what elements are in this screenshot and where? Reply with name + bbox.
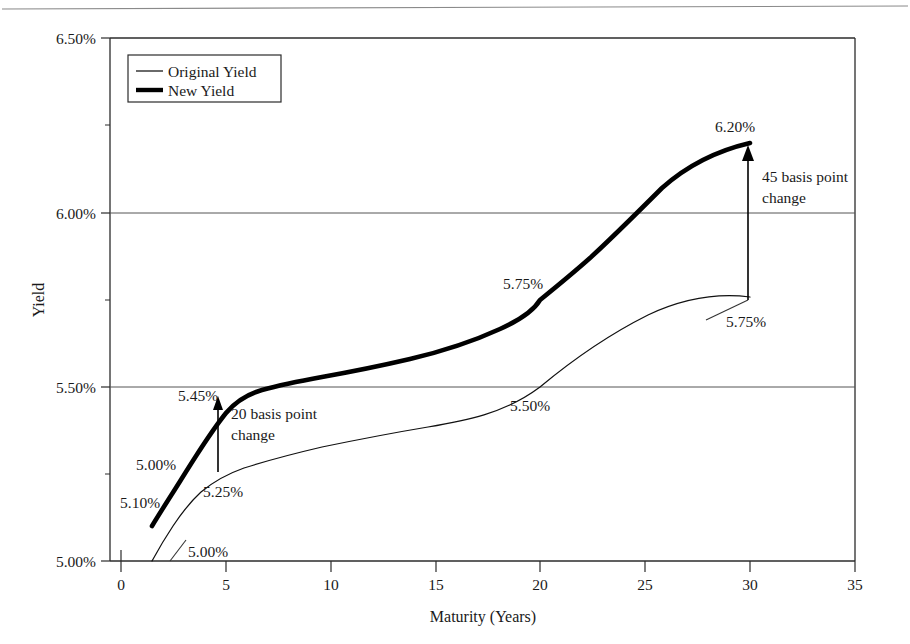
y-tick-label-6-50: 6.50% (56, 30, 96, 47)
x-tick-label-0: 0 (117, 576, 125, 593)
x-tick-label-10: 10 (323, 576, 339, 593)
legend-label-new-yield: New Yield (168, 82, 234, 99)
x-tick-label-35: 35 (847, 576, 863, 593)
x-tick-label-20: 20 (532, 576, 548, 593)
point-label-original-5-25: 5.25% (203, 483, 243, 500)
point-label-new-5-75: 5.75% (503, 275, 543, 292)
y-tick-label-5-50: 5.50% (56, 379, 96, 396)
point-label-original-5-00: 5.00% (188, 543, 228, 560)
point-label-new-6-20: 6.20% (715, 118, 755, 135)
yield-curve-figure: 6.50% 6.00% 5.50% 5.00% Yield 0 5 10 15 … (0, 0, 910, 644)
point-label-new-5-10: 5.10% (120, 494, 160, 511)
chart-legend[interactable]: Original Yield New Yield (128, 55, 281, 102)
annotation-label-20bp-line2: change (231, 426, 275, 443)
point-label-new-5-45: 5.45% (178, 387, 218, 404)
point-label-new-5-00: 5.00% (136, 456, 176, 473)
x-tick-label-25: 25 (637, 576, 653, 593)
annotation-label-20bp-line1: 20 basis point (231, 405, 318, 422)
annotation-label-45bp-line2: change (762, 189, 806, 206)
y-tick-label-5-00: 5.00% (56, 553, 96, 570)
y-axis-title: Yield (30, 283, 47, 318)
point-label-original-5-75: 5.75% (726, 313, 766, 330)
legend-label-original-yield: Original Yield (168, 63, 257, 80)
point-label-original-5-50: 5.50% (510, 397, 550, 414)
y-tick-label-6-00: 6.00% (56, 205, 96, 222)
x-tick-label-15: 15 (428, 576, 444, 593)
x-axis-title: Maturity (Years) (430, 608, 536, 626)
yield-curve-chart: 6.50% 6.00% 5.50% 5.00% Yield 0 5 10 15 … (0, 0, 910, 644)
x-tick-label-30: 30 (742, 576, 758, 593)
annotation-label-45bp-line1: 45 basis point (762, 168, 849, 185)
x-tick-label-5: 5 (222, 576, 230, 593)
